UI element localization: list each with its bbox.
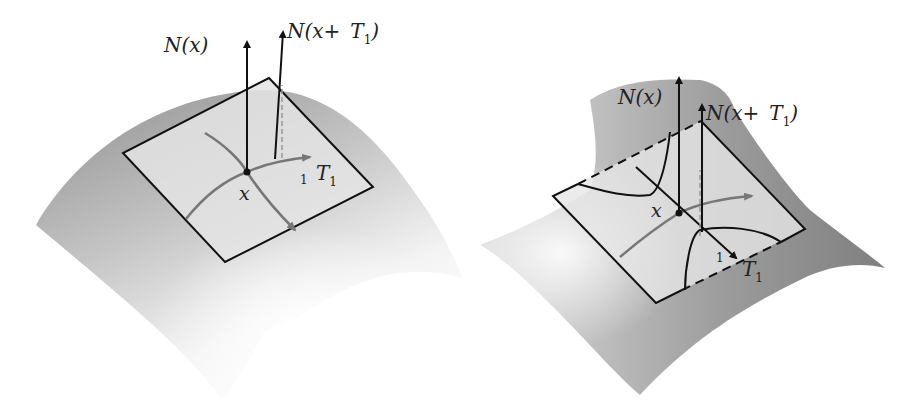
right-label-point-x: x [651,199,662,221]
left-label-normal-at-x: N(x) [163,33,208,57]
left-label-normal-at-shifted: N(x+T1) [286,19,379,47]
figure-canvas: N(x) N(x+T1) x 1 T1 N(x [0,0,920,413]
right-label-normal-at-x: N(x) [617,85,662,109]
left-label-point-x: x [239,182,250,204]
left-convex-surface-panel: N(x) N(x+T1) x 1 T1 [36,19,462,400]
left-point-x [244,169,251,176]
left-label-epsilon-mark: 1 [300,173,308,187]
right-point-x [676,210,683,217]
svg-text:N(x+T1): N(x+T1) [286,19,379,47]
right-saddle-surface-panel: N(x) N(x+T1) x 1 T1 [480,78,885,395]
right-label-normal-at-shifted: N(x+T1) [705,101,798,129]
svg-text:N(x+T1): N(x+T1) [705,101,798,129]
right-label-epsilon-mark: 1 [716,251,724,265]
